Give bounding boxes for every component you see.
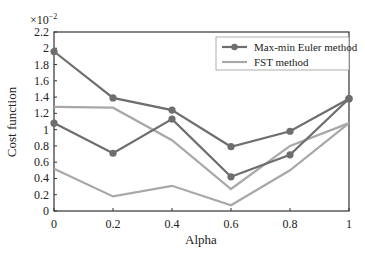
legend-label: FST method [254, 56, 309, 68]
y-tick-label: 1 [43, 123, 49, 137]
y-multiplier: ×10−2 [30, 12, 57, 27]
line-chart: 00.20.40.60.811.21.41.61.822.200.20.40.6… [0, 0, 365, 257]
y-tick-label: 0 [43, 204, 49, 218]
data-point-marker [109, 150, 116, 157]
y-tick-label: 1.4 [34, 90, 49, 104]
y-tick-label: 0.4 [34, 171, 49, 185]
x-tick-label: 0.4 [165, 217, 180, 231]
y-tick-label: 0.2 [34, 188, 49, 202]
x-tick-label: 1 [346, 217, 352, 231]
legend: Max-min Euler methodFST method [216, 37, 358, 70]
x-axis-label: Alpha [185, 232, 217, 247]
data-point-marker [227, 143, 234, 150]
data-series [50, 48, 352, 205]
legend-label: Max-min Euler method [254, 41, 358, 53]
x-tick-label: 0.8 [283, 217, 298, 231]
y-axis-label: Cost function [4, 86, 19, 157]
data-point-marker [168, 107, 175, 114]
y-tick-label: 2 [43, 41, 49, 55]
x-tick-label: 0.6 [224, 217, 239, 231]
y-tick-label: 1.8 [34, 58, 49, 72]
y-tick-label: 1.2 [34, 106, 49, 120]
data-point-marker [109, 94, 116, 101]
y-tick-label: 0.8 [34, 139, 49, 153]
data-point-marker [345, 95, 352, 102]
y-tick-label: 0.6 [34, 155, 49, 169]
data-point-marker [50, 120, 57, 127]
x-tick-label: 0 [51, 217, 57, 231]
data-point-marker [168, 115, 175, 122]
data-point-marker [227, 173, 234, 180]
y-tick-label: 2.2 [34, 25, 49, 39]
x-tick-label: 0.2 [106, 217, 121, 231]
data-point-marker [50, 48, 57, 55]
data-point-marker [286, 128, 293, 135]
y-tick-label: 1.6 [34, 74, 49, 88]
y-multiplier-exponent: −2 [49, 12, 58, 21]
data-point-marker [286, 151, 293, 158]
